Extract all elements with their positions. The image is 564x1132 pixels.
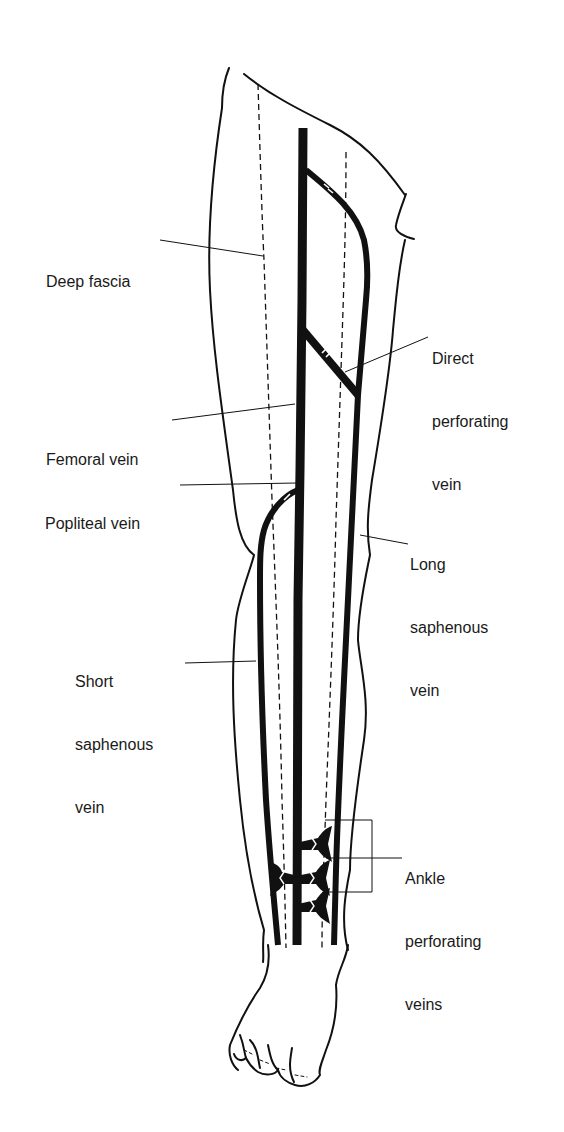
foot-outline bbox=[229, 945, 348, 1086]
femoral-vein bbox=[297, 128, 303, 945]
label-ankle-perforating-veins: Ankle perforating veins bbox=[405, 826, 482, 1057]
leg-vein-diagram: Deep fascia Direct perforating vein Femo… bbox=[0, 0, 564, 1132]
long-saphenous-vein bbox=[306, 170, 367, 945]
label-long-saphenous-vein: Long saphenous vein bbox=[410, 512, 488, 743]
direct-perforating-vein bbox=[303, 330, 358, 395]
label-direct-perforating-vein: Direct perforating vein bbox=[432, 306, 509, 537]
valves bbox=[284, 184, 333, 504]
label-popliteal-vein: Popliteal vein bbox=[45, 471, 140, 576]
label-deep-fascia: Deep fascia bbox=[46, 229, 131, 334]
label-short-saphenous-vein: Short saphenous vein bbox=[75, 629, 153, 860]
leg-outline bbox=[209, 68, 414, 962]
